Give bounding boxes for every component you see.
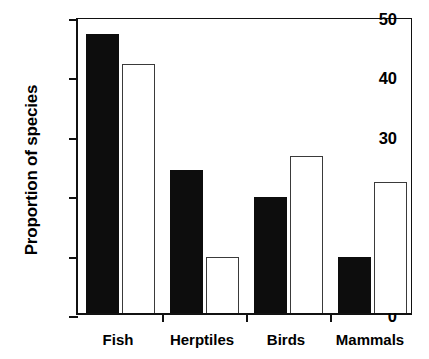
y-tick-mark: [69, 19, 78, 21]
y-tick-mark: [69, 197, 78, 199]
x-axis-labels: FishHerptilesBirdsMammals: [76, 317, 412, 357]
x-axis-category-label: Birds: [267, 331, 305, 348]
y-tick-label: 40: [379, 69, 397, 88]
x-axis-category-label: Herptiles: [170, 331, 234, 348]
bar-mammals-open: [374, 182, 407, 313]
y-tick-mark: [69, 257, 78, 259]
y-tick-label: 50: [379, 10, 397, 29]
bar-herptiles-open: [206, 257, 239, 313]
bar-chart-figure: Proportion of species 01020304050 FishHe…: [0, 0, 429, 359]
y-axis-title: Proportion of species: [22, 20, 42, 320]
y-tick-mark: [69, 138, 78, 140]
y-tick-label: 30: [379, 128, 397, 147]
bar-mammals-filled: [338, 257, 371, 313]
bar-fish-open: [122, 64, 155, 313]
bar-fish-filled: [86, 34, 119, 313]
plot-area: 01020304050: [76, 18, 412, 315]
x-axis-category-label: Mammals: [336, 331, 404, 348]
x-axis-category-label: Fish: [103, 331, 134, 348]
bar-birds-open: [290, 156, 323, 313]
bar-herptiles-filled: [170, 170, 203, 313]
y-tick-mark: [69, 78, 78, 80]
bar-birds-filled: [254, 197, 287, 313]
